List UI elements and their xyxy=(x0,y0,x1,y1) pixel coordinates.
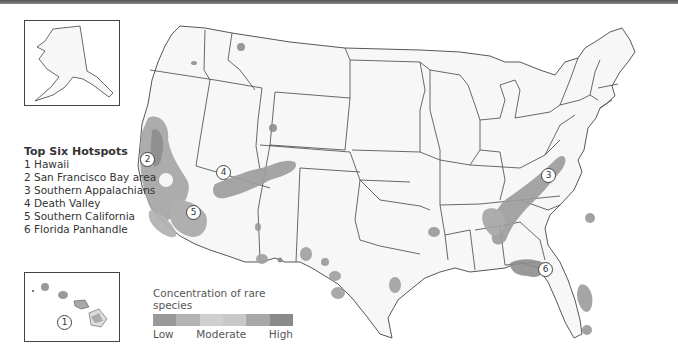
alaska-inset xyxy=(24,20,120,106)
hotspot-item: 6 Florida Panhandle xyxy=(24,223,156,236)
legend-swatch xyxy=(270,314,293,326)
legend-swatch xyxy=(200,314,223,326)
legend-title: Concentration of rare species xyxy=(153,287,293,311)
legend-moderate-label: Moderate xyxy=(196,328,246,340)
hawaii-islands xyxy=(25,273,119,341)
legend-high-label: High xyxy=(269,328,293,340)
marker-1: 1 xyxy=(57,315,72,330)
marker-3: 3 xyxy=(541,168,556,183)
hotspot-item: 4 Death Valley xyxy=(24,197,156,210)
legend-low-label: Low xyxy=(153,328,174,340)
hotspots-list: Top Six Hotspots 1 Hawaii 2 San Francisc… xyxy=(24,145,156,236)
legend-swatch xyxy=(153,314,176,326)
legend-swatch xyxy=(223,314,246,326)
marker-6: 6 xyxy=(538,262,553,277)
hawaii-inset: 1 xyxy=(24,272,120,342)
marker-4: 4 xyxy=(216,165,231,180)
hotspot-item: 2 San Francisco Bay area xyxy=(24,171,156,184)
marker-5: 5 xyxy=(186,205,201,220)
hotspot-item: 3 Southern Appalachians xyxy=(24,184,156,197)
hotspots-title: Top Six Hotspots xyxy=(24,145,156,158)
concentration-legend: Concentration of rare species Low Modera… xyxy=(153,287,293,340)
legend-swatch xyxy=(176,314,199,326)
legend-swatch xyxy=(246,314,269,326)
legend-color-scale xyxy=(153,314,293,326)
hotspot-item: 1 Hawaii xyxy=(24,158,156,171)
hotspot-item: 5 Southern California xyxy=(24,210,156,223)
alaska-shape xyxy=(25,21,119,105)
